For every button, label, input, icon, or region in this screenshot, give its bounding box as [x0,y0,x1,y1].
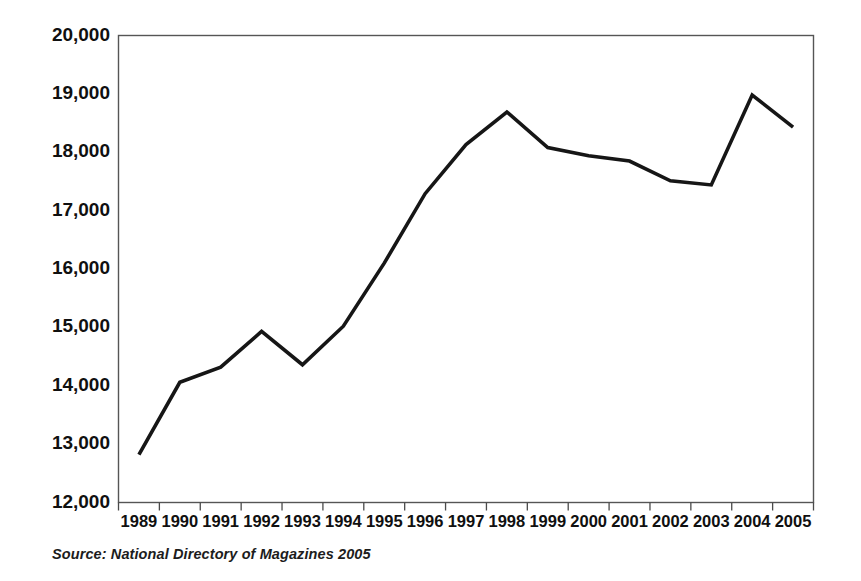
chart-background [0,0,861,581]
y-axis-tick-label: 18,000 [52,140,110,161]
x-axis-tick-labels: 1989199019911992199319941995199619971998… [121,512,812,530]
y-axis-tick-labels: 20,00019,00018,00017,00016,00015,00014,0… [52,24,110,512]
y-axis-tick-label: 15,000 [52,315,110,336]
y-axis-tick-label: 14,000 [52,374,110,395]
x-axis-tick-label: 1995 [366,512,403,530]
x-axis-tick-label: 2003 [693,512,730,530]
y-axis-tick-label: 13,000 [52,432,110,453]
x-axis-tick-label: 2002 [652,512,689,530]
x-axis-tick-label: 1991 [202,512,239,530]
x-axis-tick-label: 1992 [243,512,280,530]
line-chart: 20,00019,00018,00017,00016,00015,00014,0… [0,0,861,581]
y-axis-tick-label: 17,000 [52,199,110,220]
x-axis-tick-label: 2001 [611,512,648,530]
y-axis-tick-label: 20,000 [52,24,110,45]
x-axis-tick-label: 1999 [529,512,566,530]
chart-figure: 20,00019,00018,00017,00016,00015,00014,0… [0,0,861,581]
x-axis-tick-label: 2000 [570,512,607,530]
x-axis-tick-label: 1994 [325,512,363,530]
y-axis-tick-label: 19,000 [52,82,110,103]
x-axis-tick-label: 1996 [407,512,444,530]
x-axis-tick-label: 1997 [448,512,485,530]
y-axis-tick-label: 12,000 [52,491,110,512]
x-axis-tick-label: 1998 [489,512,526,530]
x-axis-tick-label: 1993 [284,512,321,530]
x-axis-tick-label: 1990 [161,512,198,530]
x-axis-tick-label: 1989 [121,512,158,530]
source-note: Source: National Directory of Magazines … [52,546,371,562]
y-axis-tick-label: 16,000 [52,257,110,278]
x-axis-tick-label: 2004 [734,512,772,530]
x-axis-tick-label: 2005 [775,512,812,530]
